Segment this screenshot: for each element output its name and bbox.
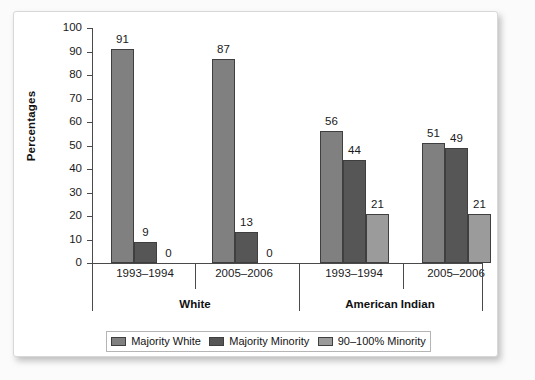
x-axis-year-label: 2005–2006 xyxy=(416,268,496,280)
bar-value-label: 0 xyxy=(154,248,184,260)
legend-label: Majority Minority xyxy=(229,336,309,347)
x-axis-separator xyxy=(299,263,300,311)
y-tick-label: 20 xyxy=(54,210,82,222)
bar-chart: Percentages 1009080706050403020100 91908… xyxy=(14,12,497,356)
x-axis-separator xyxy=(482,263,483,311)
x-axis-year-label: 1993–1994 xyxy=(314,268,394,280)
legend-item: 90–100% Minority xyxy=(318,336,426,347)
bar-value-label: 13 xyxy=(232,217,262,229)
chart-card: Percentages 1009080706050403020100 91908… xyxy=(13,11,498,357)
x-axis-year-label: 1993–1994 xyxy=(105,268,185,280)
bar xyxy=(212,59,235,263)
bar-value-label: 44 xyxy=(340,145,370,157)
bar xyxy=(343,160,366,263)
chart-legend: Majority WhiteMajority Minority90–100% M… xyxy=(106,331,431,352)
bar xyxy=(468,214,491,263)
bar xyxy=(366,214,389,263)
bar-value-label: 49 xyxy=(442,133,472,145)
y-axis-title: Percentages xyxy=(25,76,37,176)
x-axis-line xyxy=(92,263,482,264)
legend-swatch-icon xyxy=(318,337,333,346)
y-tick-label: 90 xyxy=(54,46,82,58)
y-tick-label: 30 xyxy=(54,187,82,199)
x-axis-group-label: American Indian xyxy=(305,299,475,311)
legend-label: 90–100% Minority xyxy=(338,336,426,347)
bar-value-label: 87 xyxy=(209,44,239,56)
x-axis-separator xyxy=(195,263,196,289)
legend-item: Majority Minority xyxy=(209,336,309,347)
x-axis-separator xyxy=(92,263,93,311)
bar xyxy=(422,143,445,263)
bar-value-label: 9 xyxy=(131,227,161,239)
x-axis-separator xyxy=(403,263,404,289)
y-tick-label: 60 xyxy=(54,116,82,128)
bar-value-label: 91 xyxy=(108,34,138,46)
x-axis-year-label: 2005–2006 xyxy=(204,268,284,280)
y-tick-label: 10 xyxy=(54,234,82,246)
y-tick-label: 40 xyxy=(54,163,82,175)
legend-swatch-icon xyxy=(111,337,126,346)
screenshot-root: Percentages 1009080706050403020100 91908… xyxy=(0,0,535,380)
bar-value-label: 56 xyxy=(317,116,347,128)
y-tick-label: 0 xyxy=(54,257,82,269)
bar-value-label: 21 xyxy=(465,199,495,211)
y-tick-label: 50 xyxy=(54,140,82,152)
legend-label: Majority White xyxy=(131,336,201,347)
x-axis-group-label: White xyxy=(110,299,280,311)
bar-value-label: 21 xyxy=(363,199,393,211)
y-tick-label: 70 xyxy=(54,93,82,105)
bar-value-label: 0 xyxy=(255,248,285,260)
y-tick-label: 80 xyxy=(54,69,82,81)
bars-layer: 919087130564421514921 xyxy=(92,28,482,263)
y-tick-label: 100 xyxy=(54,22,82,34)
legend-swatch-icon xyxy=(209,337,224,346)
legend-item: Majority White xyxy=(111,336,201,347)
